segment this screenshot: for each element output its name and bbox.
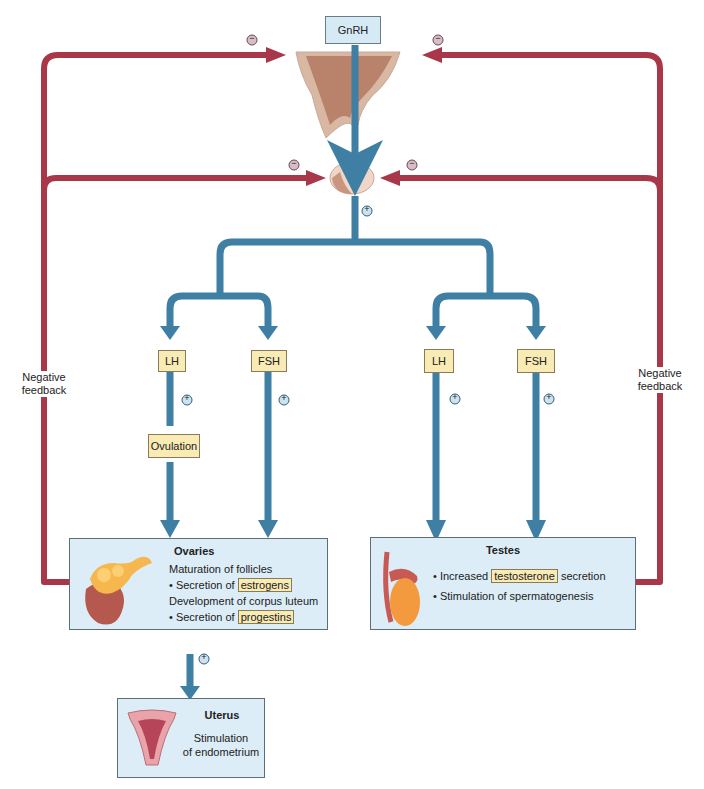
progestins-highlight: progestins: [238, 610, 295, 624]
testosterone-highlight: testosterone: [491, 569, 558, 583]
minus-sign-icon: −: [433, 33, 443, 43]
testes-title: Testes: [371, 544, 635, 556]
estrogens-highlight: estrogens: [238, 578, 292, 592]
ovulation-label: Ovulation: [148, 434, 200, 458]
plus-sign-icon: +: [199, 652, 209, 662]
ovaries-panel: Ovaries Maturation of follicles • Secret…: [69, 538, 328, 630]
plus-sign-icon: +: [279, 393, 289, 403]
ovaries-effect-line: Development of corpus luteum: [169, 593, 318, 609]
uterus-title: Uterus: [182, 709, 262, 721]
ovaries-effect-line: • Secretion of estrogens: [169, 577, 318, 593]
uterus-effect: Stimulation of endometrium: [176, 731, 266, 759]
negative-feedback-label-right: Negative feedback: [628, 367, 692, 393]
uterus-effect-line: of endometrium: [176, 745, 266, 759]
lh-label-female: LH: [158, 350, 186, 372]
plus-sign-icon: +: [182, 393, 192, 403]
plus-sign-icon: +: [362, 204, 372, 214]
uterus-panel: Uterus Stimulation of endometrium: [117, 698, 265, 778]
minus-sign-icon: −: [407, 158, 417, 168]
uterus-illustration: [124, 705, 180, 775]
gnrh-label: GnRH: [325, 16, 381, 44]
minus-sign-icon: −: [247, 33, 257, 43]
minus-sign-icon: −: [289, 158, 299, 168]
testes-effect-line: • Stimulation of spermatogenesis: [433, 588, 606, 604]
negative-feedback-label-left: Negative feedback: [12, 371, 76, 397]
diagram-canvas: [0, 0, 704, 789]
plus-sign-icon: +: [450, 392, 460, 402]
fsh-label-male: FSH: [517, 349, 555, 373]
testes-effect-line: • Increased testosterone secretion: [433, 568, 606, 584]
testes-effects: • Increased testosterone secretion • Sti…: [433, 568, 606, 604]
effect-text: • Secretion of: [169, 579, 238, 591]
lh-label-male: LH: [424, 349, 454, 373]
fsh-label-female: FSH: [251, 350, 287, 372]
effect-text: secretion: [558, 570, 606, 582]
ovaries-effect-line: • Secretion of progestins: [169, 609, 318, 625]
uterus-effect-line: Stimulation: [176, 731, 266, 745]
effect-text: • Secretion of: [169, 611, 238, 623]
ovary-illustration: [76, 549, 156, 629]
testes-panel: Testes • Increased testosterone secretio…: [370, 537, 636, 630]
effect-text: • Increased: [433, 570, 491, 582]
ovaries-effects: Maturation of follicles • Secretion of e…: [169, 561, 318, 625]
plus-sign-icon: +: [544, 392, 554, 402]
ovaries-effect-line: Maturation of follicles: [169, 561, 318, 577]
ovaries-title: Ovaries: [174, 545, 214, 557]
